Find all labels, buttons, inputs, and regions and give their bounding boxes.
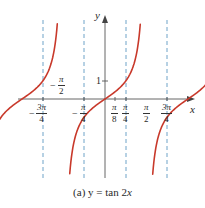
x-axis-label: x bbox=[190, 104, 195, 115]
x-tick-label-pi-4: π 4 bbox=[122, 103, 129, 124]
y-axis-label: y bbox=[95, 10, 100, 21]
x-tick-sign-neg-pi-4: − bbox=[72, 108, 78, 119]
y-axis-arrow-icon bbox=[102, 15, 108, 23]
x-tick-label-3pi-4: 3π 4 bbox=[161, 103, 172, 124]
x-tick-label-neg-3pi-4: 3π 4 bbox=[36, 103, 47, 124]
x-tick-label-neg-pi-4: π 4 bbox=[80, 103, 87, 124]
x-tick-label-pi-2: π 2 bbox=[143, 103, 150, 124]
chart-caption: (a) y = tan 2x bbox=[0, 186, 205, 198]
x-tick-label-pi-8: π 8 bbox=[111, 103, 118, 124]
y-tick-label-1: 1 bbox=[96, 76, 101, 86]
x-tick-sign-neg-3pi-4: − bbox=[29, 108, 35, 119]
tan-2x-plot bbox=[0, 0, 205, 208]
x-tick-label-neg-pi-2: π 2 bbox=[58, 75, 65, 96]
x-tick-sign-neg-pi-2: − bbox=[50, 80, 56, 91]
